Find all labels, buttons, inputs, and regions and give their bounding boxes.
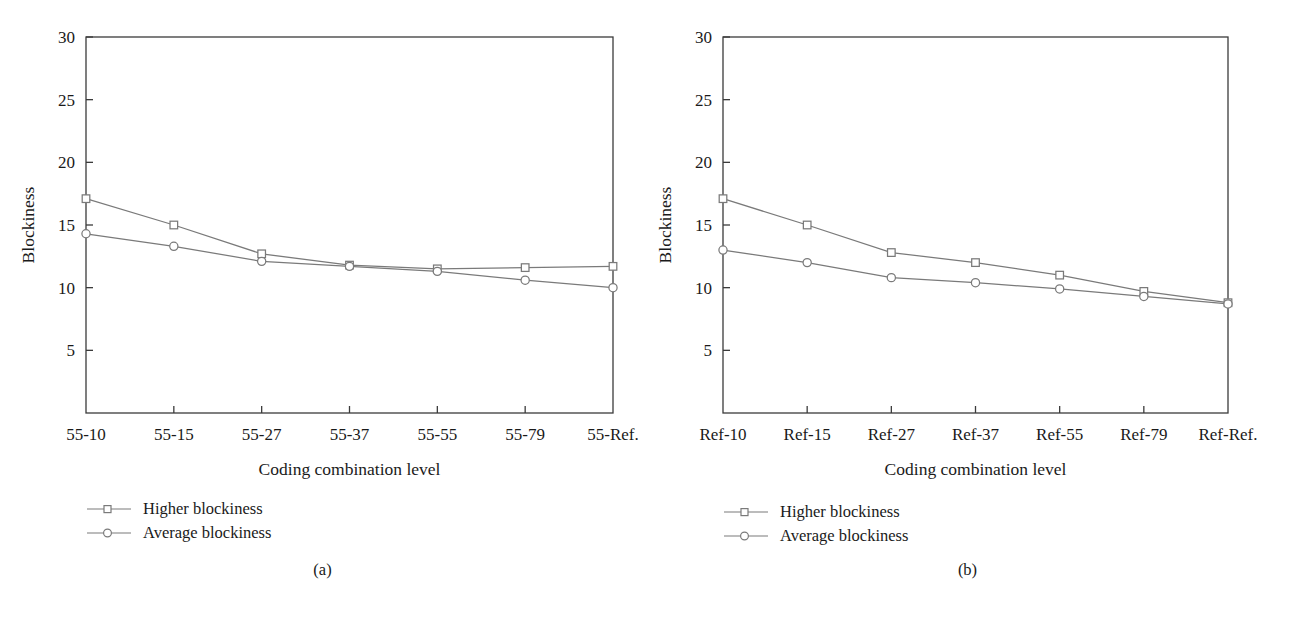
data-point-marker-square: [972, 259, 980, 267]
x-tick-label: Ref-Ref.: [1198, 425, 1257, 444]
data-point-marker-square: [803, 221, 811, 229]
legend-marker-circle-icon: [86, 526, 132, 540]
y-tick-label: 30: [58, 28, 75, 47]
legend-marker-square-icon: [723, 505, 769, 519]
plot-frame: [86, 37, 613, 413]
data-point-marker-circle: [433, 267, 441, 275]
data-point-marker-circle: [521, 276, 529, 284]
x-tick-label: 55-Ref.: [587, 425, 638, 444]
data-point-marker-circle: [258, 257, 266, 265]
data-point-marker-circle: [803, 259, 811, 267]
data-point-marker-circle: [971, 279, 979, 287]
y-tick-label: 5: [67, 341, 76, 360]
plot-frame: [723, 37, 1228, 413]
data-point-marker-square: [888, 249, 896, 257]
data-point-marker-square: [1056, 271, 1064, 279]
figure-panel-b: 51015202530Ref-10Ref-15Ref-27Ref-37Ref-5…: [645, 0, 1290, 618]
chart-b-canvas: 51015202530Ref-10Ref-15Ref-27Ref-37Ref-5…: [645, 0, 1290, 490]
series-line: [86, 199, 613, 269]
x-tick-label: 55-79: [505, 425, 545, 444]
legend-label-higher-blockiness: Higher blockiness: [143, 498, 263, 520]
data-point-marker-circle: [1056, 285, 1064, 293]
data-point-marker-square: [258, 250, 266, 258]
y-tick-label: 25: [58, 91, 75, 110]
data-point-marker-square: [82, 195, 90, 203]
figure-panels-row: 5101520253055-1055-1555-2755-3755-5555-7…: [0, 0, 1291, 618]
series-line: [723, 250, 1228, 304]
x-tick-label: 55-10: [66, 425, 106, 444]
y-axis-title: Blockiness: [655, 186, 675, 263]
data-point-marker-circle: [887, 274, 895, 282]
chart-b-legend: Higher blockiness Average blockiness: [723, 500, 908, 548]
y-tick-label: 30: [695, 28, 712, 47]
y-tick-label: 25: [695, 91, 712, 110]
subfigure-caption-a: (a): [0, 560, 645, 580]
y-tick-label: 20: [58, 153, 75, 172]
series-average-blockiness: [719, 246, 1232, 308]
data-point-marker-circle: [170, 242, 178, 250]
series-higher-blockiness: [82, 195, 617, 273]
y-tick-label: 15: [695, 216, 712, 235]
data-point-marker-square: [719, 195, 727, 203]
x-tick-label: 55-27: [242, 425, 282, 444]
chart-a-legend: Higher blockiness Average blockiness: [86, 497, 271, 545]
legend-marker-circle-icon: [723, 529, 769, 543]
series-higher-blockiness: [719, 195, 1232, 307]
data-point-marker-square: [521, 264, 529, 272]
legend-label-average-blockiness: Average blockiness: [780, 525, 908, 547]
x-tick-label: Ref-55: [1036, 425, 1083, 444]
data-point-marker-circle: [1140, 292, 1148, 300]
legend-item-higher-blockiness: Higher blockiness: [723, 500, 908, 524]
legend-label-higher-blockiness: Higher blockiness: [780, 501, 900, 523]
x-tick-label: Ref-10: [699, 425, 746, 444]
y-tick-label: 10: [58, 279, 75, 298]
legend-item-average-blockiness: Average blockiness: [86, 521, 271, 545]
legend-marker-square-icon: [86, 502, 132, 516]
legend-item-higher-blockiness: Higher blockiness: [86, 497, 271, 521]
data-point-marker-circle: [345, 262, 353, 270]
data-point-marker-circle: [1224, 300, 1232, 308]
x-tick-label: 55-55: [417, 425, 457, 444]
chart-a-canvas: 5101520253055-1055-1555-2755-3755-5555-7…: [0, 0, 645, 490]
x-tick-label: 55-15: [154, 425, 194, 444]
x-tick-label: Ref-37: [952, 425, 1000, 444]
legend-label-average-blockiness: Average blockiness: [143, 522, 271, 544]
x-tick-label: Ref-15: [784, 425, 831, 444]
x-tick-label: 55-37: [330, 425, 370, 444]
data-point-marker-circle: [609, 284, 617, 292]
y-axis-title: Blockiness: [18, 186, 38, 263]
y-tick-label: 5: [704, 341, 713, 360]
data-point-marker-circle: [719, 246, 727, 254]
y-tick-label: 20: [695, 153, 712, 172]
x-axis-title: Coding combination level: [259, 459, 441, 479]
data-point-marker-square: [170, 221, 178, 229]
x-tick-label: Ref-79: [1120, 425, 1167, 444]
legend-item-average-blockiness: Average blockiness: [723, 524, 908, 548]
x-axis-title: Coding combination level: [885, 459, 1067, 479]
x-tick-label: Ref-27: [868, 425, 916, 444]
figure-panel-a: 5101520253055-1055-1555-2755-3755-5555-7…: [0, 0, 645, 618]
data-point-marker-square: [609, 263, 617, 271]
y-tick-label: 10: [695, 279, 712, 298]
y-tick-label: 15: [58, 216, 75, 235]
subfigure-caption-b: (b): [645, 560, 1290, 580]
data-point-marker-circle: [82, 230, 90, 238]
